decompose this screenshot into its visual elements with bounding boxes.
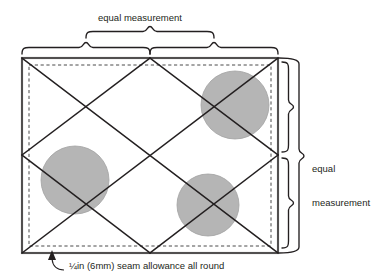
top-equal-measurement-label: equal measurement (98, 12, 182, 23)
diagram-canvas (0, 0, 390, 278)
cushion-layout-diagram: equal measurement equal measurement ¼in … (0, 0, 390, 278)
brace-right-upper (282, 62, 294, 152)
right-measurement-line-2: measurement (312, 197, 370, 208)
right-measurement-line-1: equal (312, 163, 370, 174)
brace-right-lower (282, 158, 294, 248)
seam-allowance-leader-line (52, 259, 64, 270)
right-braces-group (279, 58, 304, 253)
brace-right-outer (279, 58, 304, 253)
brace-top-left (22, 43, 150, 55)
circle-left (41, 146, 109, 214)
top-braces-group (22, 27, 278, 55)
brace-top-center (86, 27, 214, 39)
brace-top-right (150, 43, 278, 55)
right-equal-measurement-label: equal measurement (312, 141, 370, 231)
seam-allowance-caption: ¼in (6mm) seam allowance all round (69, 260, 224, 271)
